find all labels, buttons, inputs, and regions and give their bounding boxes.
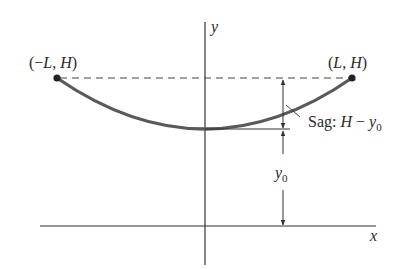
y0-label: y0 bbox=[273, 164, 288, 184]
y-axis-label: y bbox=[209, 18, 219, 36]
sag-diagram: (−L, H) (L, H) y x Sag: H − y0 y0 bbox=[0, 0, 420, 269]
right-endpoint bbox=[348, 74, 355, 81]
x-axis-label: x bbox=[369, 227, 377, 244]
right-point-label: (L, H) bbox=[328, 54, 367, 72]
left-point-label: (−L, H) bbox=[29, 54, 77, 72]
left-endpoint bbox=[53, 74, 60, 81]
sag-label: Sag: H − y0 bbox=[308, 113, 382, 133]
